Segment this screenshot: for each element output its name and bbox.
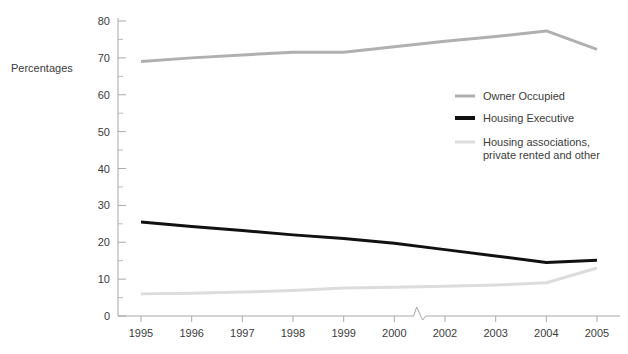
- x-tick-label: 2002: [433, 327, 457, 339]
- legend-label-2-line2: private rented and other: [483, 149, 600, 161]
- line-chart: 01020304050607080 1995199619971998199920…: [0, 0, 628, 354]
- chart-legend: Owner OccupiedHousing ExecutiveHousing a…: [455, 90, 600, 161]
- y-tick-label: 50: [98, 126, 110, 138]
- x-tick-label: 1997: [230, 327, 254, 339]
- legend-label-2: Housing associations,: [483, 136, 590, 148]
- y-tick-label: 0: [104, 310, 110, 322]
- y-tick-label: 30: [98, 199, 110, 211]
- y-tick-label: 10: [98, 273, 110, 285]
- y-tick-label: 40: [98, 163, 110, 175]
- series-line-0: [141, 31, 597, 62]
- legend-label-0: Owner Occupied: [483, 90, 565, 102]
- x-tick-label: 1996: [179, 327, 203, 339]
- x-tick-label-group: 1995199619971998199920002002200320042005: [129, 327, 609, 339]
- x-tick-label: 1995: [129, 327, 153, 339]
- y-tick-label: 60: [98, 89, 110, 101]
- data-series-group: [141, 31, 597, 294]
- y-tick-label: 20: [98, 236, 110, 248]
- legend-label-1: Housing Executive: [483, 112, 574, 124]
- x-axis-group: [118, 307, 620, 322]
- y-major-tick-group: [118, 21, 126, 316]
- x-axis-break-zigzag: [414, 307, 426, 320]
- x-tick-label: 2003: [483, 327, 507, 339]
- series-line-1: [141, 222, 597, 263]
- y-tick-label: 70: [98, 52, 110, 64]
- x-tick-label: 2004: [534, 327, 558, 339]
- x-tick-label: 2000: [382, 327, 406, 339]
- x-tick-label: 1999: [331, 327, 355, 339]
- series-line-2: [141, 268, 597, 294]
- y-tick-label-group: 01020304050607080: [98, 15, 110, 322]
- y-tick-label: 80: [98, 15, 110, 27]
- x-tick-label: 1998: [281, 327, 305, 339]
- chart-container: Percentages 01020304050607080 1995199619…: [0, 0, 628, 354]
- x-tick-label: 2005: [585, 327, 609, 339]
